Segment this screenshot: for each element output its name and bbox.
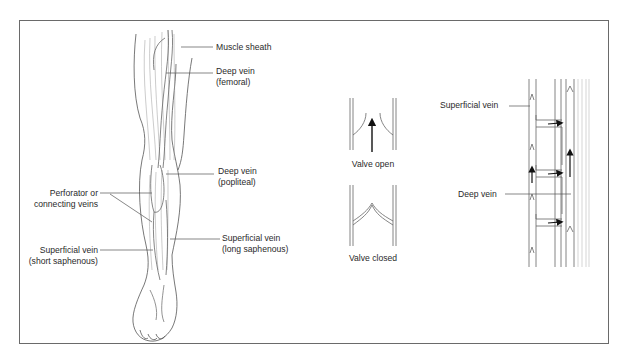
label-valve-closed: Valve closed <box>340 253 406 264</box>
leader-lines <box>100 47 220 250</box>
vein-system-illustration <box>529 79 589 267</box>
label-line: (short saphenous) <box>29 256 98 267</box>
label-perforator-veins: Perforator or connecting veins <box>34 188 98 209</box>
label-valve-open: Valve open <box>343 159 403 170</box>
label-line: connecting veins <box>34 199 98 210</box>
label-line: Deep vein <box>218 166 257 177</box>
label-line: Superficial vein <box>29 245 98 256</box>
label-line: Deep vein <box>216 66 255 77</box>
valve-closed-illustration <box>350 185 396 246</box>
label-superficial-short: Superficial vein (short saphenous) <box>29 245 98 266</box>
label-line: (popliteal) <box>218 177 257 188</box>
label-superficial-long: Superficial vein (long saphenous) <box>222 233 288 254</box>
vein-diagram <box>0 0 628 363</box>
leg-illustration <box>133 30 192 341</box>
label-line: Superficial vein <box>222 233 288 244</box>
valve-open-illustration <box>350 98 396 152</box>
label-line: Perforator or <box>34 188 98 199</box>
label-line: (femoral) <box>216 77 255 88</box>
label-deep-vein: Deep vein <box>458 189 497 200</box>
label-deep-vein-femoral: Deep vein (femoral) <box>216 66 255 87</box>
label-deep-vein-popliteal: Deep vein (popliteal) <box>218 166 257 187</box>
label-muscle-sheath: Muscle sheath <box>216 42 271 53</box>
label-line: (long saphenous) <box>222 244 288 255</box>
label-superficial-vein: Superficial vein <box>440 100 498 111</box>
